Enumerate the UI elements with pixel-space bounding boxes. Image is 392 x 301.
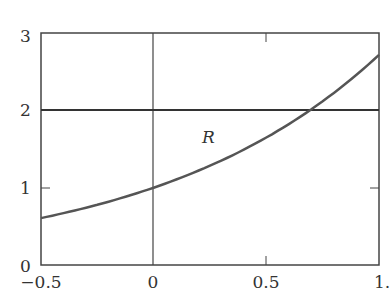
region-label: R: [201, 127, 215, 147]
chart: 3 2 1 0 −0.5 0 0.5 1. R: [0, 0, 392, 301]
y-tick-label: 2: [20, 100, 31, 120]
plot-frame: [41, 33, 379, 265]
x-tick-label: −0.5: [20, 272, 61, 292]
plot-area: [41, 33, 379, 265]
x-tick-label: 1.: [374, 272, 390, 292]
y-tick-label: 1: [20, 178, 31, 198]
y-tick-label: 3: [20, 26, 31, 46]
x-tick-labels: −0.5 0 0.5 1.: [20, 272, 390, 292]
y-tick-labels: 3 2 1 0: [20, 26, 31, 276]
x-tick-label: 0.5: [252, 272, 279, 292]
x-tick-label: 0: [148, 272, 159, 292]
